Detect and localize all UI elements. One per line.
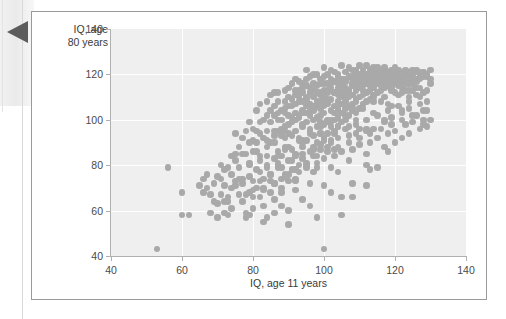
scatter-point xyxy=(406,87,413,94)
scatter-point xyxy=(292,166,299,173)
y-axis-tick-mark xyxy=(106,211,110,212)
scatter-point xyxy=(427,80,434,87)
x-axis-tick-mark xyxy=(395,257,396,261)
scatter-point xyxy=(338,62,345,69)
callout-triangle-marker xyxy=(7,21,28,43)
scatter-point xyxy=(424,98,431,105)
scatter-point xyxy=(228,171,235,178)
scatter-point xyxy=(257,178,264,185)
scatter-point xyxy=(303,160,310,167)
scatter-point xyxy=(239,135,246,142)
scatter-point xyxy=(271,139,278,146)
y-axis-tick-label: 40 xyxy=(63,251,103,261)
scatter-point xyxy=(271,196,278,203)
scatter-point xyxy=(346,132,353,139)
scatter-point xyxy=(264,153,271,160)
scatter-point xyxy=(253,107,260,114)
scatter-point xyxy=(424,107,431,114)
scatter-point xyxy=(165,164,172,171)
scatter-point xyxy=(289,157,296,164)
scatter-point xyxy=(409,119,416,126)
scatter-point xyxy=(349,146,356,153)
scatter-point xyxy=(314,153,321,160)
scatter-point xyxy=(331,153,338,160)
scatter-point xyxy=(331,130,338,137)
scatter-point xyxy=(292,187,299,194)
scatter-point xyxy=(236,164,243,171)
scatter-point xyxy=(186,212,193,219)
scatter-point xyxy=(335,169,342,176)
scatter-point xyxy=(363,182,370,189)
scatter-point xyxy=(353,98,360,105)
scatter-point xyxy=(324,96,331,103)
scatter-point xyxy=(282,173,289,180)
scatter-point xyxy=(250,194,257,201)
scatter-point xyxy=(338,89,345,96)
scatter-point xyxy=(292,117,299,124)
scatter-point xyxy=(385,107,392,114)
scatter-point xyxy=(424,123,431,130)
scatter-point xyxy=(381,64,388,71)
scatter-point xyxy=(381,117,388,124)
scatter-point xyxy=(257,101,264,108)
scatter-point xyxy=(321,155,328,162)
scatter-point xyxy=(271,89,278,96)
scatter-point xyxy=(349,80,356,87)
scatter-point xyxy=(282,135,289,142)
scatter-point xyxy=(406,130,413,137)
scatter-point xyxy=(246,139,253,146)
scatter-point xyxy=(267,107,274,114)
scatter-point xyxy=(289,96,296,103)
scatter-point xyxy=(264,128,271,135)
scatter-point xyxy=(321,80,328,87)
scatter-point xyxy=(196,182,203,189)
scatter-point xyxy=(285,221,292,228)
scatter-point xyxy=(225,164,232,171)
scatter-point xyxy=(303,110,310,117)
scatter-point xyxy=(328,164,335,171)
scatter-point xyxy=(356,141,363,148)
scatter-point xyxy=(328,139,335,146)
scatter-point xyxy=(388,121,395,128)
x-axis-tick-mark xyxy=(182,257,183,261)
y-axis-tick-mark xyxy=(106,256,110,257)
scatter-point xyxy=(353,121,360,128)
scatter-point xyxy=(285,144,292,151)
scatter-point xyxy=(363,117,370,124)
scatter-point xyxy=(207,210,214,217)
page-gutter-shadow xyxy=(0,0,34,106)
scatter-point xyxy=(367,166,374,173)
scatter-point xyxy=(374,164,381,171)
scatter-point xyxy=(356,85,363,92)
scatter-point xyxy=(317,130,324,137)
scatter-point xyxy=(335,123,342,130)
x-axis-tick-label: 80 xyxy=(233,265,273,275)
scatter-point xyxy=(253,139,260,146)
scatter-point xyxy=(314,214,321,221)
scatter-point xyxy=(250,187,257,194)
scatter-point xyxy=(324,130,331,137)
scatter-point xyxy=(200,176,207,183)
scatter-point xyxy=(321,137,328,144)
x-axis-line xyxy=(110,256,467,257)
scatter-point xyxy=(399,135,406,142)
gridline-vertical xyxy=(182,29,183,256)
scatter-point xyxy=(214,214,221,221)
scatter-point xyxy=(406,98,413,105)
scatter-point xyxy=(381,94,388,101)
scatter-point xyxy=(409,112,416,119)
scatter-point xyxy=(239,198,246,205)
scatter-point xyxy=(307,180,314,187)
scatter-point xyxy=(349,180,356,187)
scatter-point xyxy=(409,80,416,87)
scatter-point xyxy=(356,71,363,78)
scatter-point xyxy=(338,212,345,219)
x-axis-tick-mark xyxy=(466,257,467,261)
scatter-point xyxy=(179,212,186,219)
x-axis-tick-mark xyxy=(324,257,325,261)
scatter-point xyxy=(321,246,328,253)
scatter-point xyxy=(370,98,377,105)
scatter-point xyxy=(292,178,299,185)
y-axis-tick-label: 140 xyxy=(63,24,103,34)
scatter-point xyxy=(278,117,285,124)
